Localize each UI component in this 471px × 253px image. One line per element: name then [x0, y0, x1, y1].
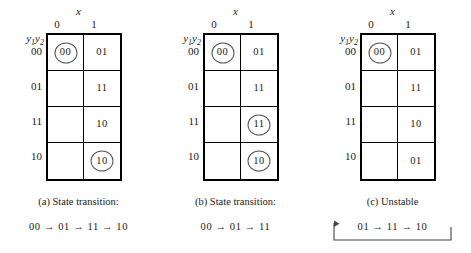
table-cell	[362, 143, 398, 179]
table-cell: 10	[241, 143, 277, 179]
table-cell: 11	[398, 71, 434, 107]
cycle-transition-c: 01 → 11 → 10	[314, 218, 471, 248]
cell-value: 00	[374, 47, 385, 58]
panel-transition-a: 00 → 01 → 11 → 10	[0, 221, 157, 233]
row-header-b-0: 00	[161, 46, 199, 57]
row-header-c-0: 00	[318, 46, 356, 57]
table-cell	[48, 143, 84, 179]
table-cell	[205, 107, 241, 143]
table-cell	[205, 71, 241, 107]
table-cell: 00	[362, 35, 398, 71]
row-header-a-3: 10	[4, 151, 42, 162]
cell-value: 10	[96, 119, 107, 130]
table-cell	[205, 143, 241, 179]
table-cell	[362, 107, 398, 143]
table-cell: 11	[241, 107, 277, 143]
table-cell: 01	[241, 35, 277, 71]
flow-table-grid-b: 00 01 11 11 10	[203, 33, 279, 181]
cell-value: 10	[253, 156, 264, 167]
panel-transition-b: 00 → 01 → 11	[157, 221, 314, 233]
input-variable-label-b: x	[157, 6, 314, 17]
cell-value: 00	[217, 47, 228, 58]
column-header-b-1: 1	[242, 19, 260, 30]
panel-transition-c: 01 → 11 → 10	[314, 221, 471, 233]
table-cell: 00	[48, 35, 84, 71]
table-cell: 11	[241, 71, 277, 107]
table-cell: 01	[84, 35, 120, 71]
table-cell	[48, 71, 84, 107]
column-header-c-1: 1	[399, 19, 417, 30]
cell-value: 01	[410, 156, 421, 167]
panel-c: x 0 1 y1y2 00 01 11 10 00 01 11 10 01 (c…	[314, 0, 471, 253]
flow-table-figure: x 0 1 y1y2 00 01 11 10 00 01 11 10 10 (a…	[0, 0, 471, 253]
cell-value: 11	[254, 83, 265, 94]
table-cell: 10	[84, 107, 120, 143]
row-header-b-3: 10	[161, 151, 199, 162]
panel-caption-a: (a) State transition:	[0, 196, 157, 208]
row-header-c-1: 01	[318, 81, 356, 92]
cell-value: 11	[97, 83, 108, 94]
cell-value: 01	[410, 47, 421, 58]
row-header-a-1: 01	[4, 81, 42, 92]
table-cell: 01	[398, 143, 434, 179]
row-header-b-2: 11	[161, 116, 199, 127]
panel-caption-b: (b) State transition:	[157, 196, 314, 208]
row-header-a-2: 11	[4, 116, 42, 127]
column-header-a-0: 0	[48, 19, 66, 30]
panel-b: x 0 1 y1y2 00 01 11 10 00 01 11 11 10 (b…	[157, 0, 314, 253]
table-cell: 10	[84, 143, 120, 179]
table-cell: 10	[398, 107, 434, 143]
column-header-b-0: 0	[205, 19, 223, 30]
table-cell	[48, 107, 84, 143]
column-header-c-0: 0	[362, 19, 380, 30]
table-cell: 01	[398, 35, 434, 71]
row-header-b-1: 01	[161, 81, 199, 92]
cell-value: 11	[254, 119, 265, 130]
input-variable-label-a: x	[0, 6, 157, 17]
table-cell: 00	[205, 35, 241, 71]
row-header-c-3: 10	[318, 151, 356, 162]
row-header-a-0: 00	[4, 46, 42, 57]
cell-value: 01	[253, 47, 264, 58]
cell-value: 00	[60, 47, 71, 58]
panel-caption-c: (c) Unstable	[314, 196, 471, 208]
table-cell: 11	[84, 71, 120, 107]
table-cell	[362, 71, 398, 107]
column-header-a-1: 1	[85, 19, 103, 30]
row-header-c-2: 11	[318, 116, 356, 127]
cell-value: 10	[410, 119, 421, 130]
input-variable-label-c: x	[314, 6, 471, 17]
panel-a: x 0 1 y1y2 00 01 11 10 00 01 11 10 10 (a…	[0, 0, 157, 253]
cell-value: 10	[96, 156, 107, 167]
flow-table-grid-a: 00 01 11 10 10	[46, 33, 122, 181]
cell-value: 11	[411, 83, 422, 94]
flow-table-grid-c: 00 01 11 10 01	[360, 33, 436, 181]
cell-value: 01	[96, 47, 107, 58]
